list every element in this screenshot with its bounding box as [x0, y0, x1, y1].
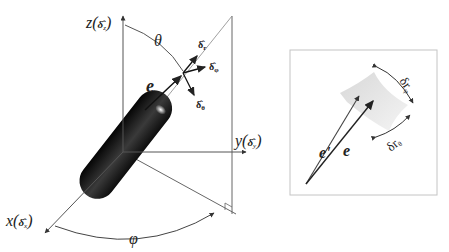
e-vector-label: e [146, 76, 154, 96]
y-axis-label: y(δ̂y) [233, 132, 262, 150]
e-inset-label: e [343, 142, 350, 159]
z-axis-label: z(δ̂z) [85, 14, 111, 32]
delta-theta-vector [183, 73, 194, 95]
local-basis [183, 56, 205, 95]
phi-label: φ [129, 230, 138, 248]
delta-phi-label: δ̂φ [209, 61, 219, 74]
e-prime-label: e' [319, 144, 331, 161]
spherical-coordinates-diagram: z(δ̂z) θ e δ̂r δ̂φ δ̂θ y(δ̂y) x(δ̂x) φ e… [0, 0, 449, 252]
theta-label: θ [154, 32, 162, 49]
inset-panel [290, 50, 437, 195]
x-axis-label: x(δ̂x) [5, 212, 33, 230]
delta-theta-label: δ̂θ [196, 99, 205, 112]
x-axis [45, 152, 123, 233]
delta-r-label: δ̂r [198, 39, 206, 52]
